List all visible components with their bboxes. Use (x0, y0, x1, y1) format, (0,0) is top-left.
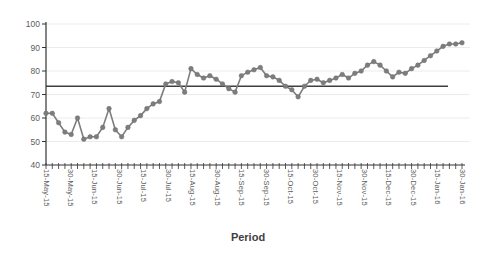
data-point-marker (441, 44, 446, 49)
data-point-marker (220, 82, 225, 87)
data-point-marker (258, 65, 263, 70)
data-point-marker (88, 135, 93, 140)
y-axis-label: 90 (14, 43, 40, 53)
y-axis-label: 100 (14, 19, 40, 29)
data-point-marker (195, 72, 200, 77)
data-point-marker (233, 90, 238, 95)
x-axis-label: 15-Jan-16 (431, 169, 444, 229)
x-axis-label: 15-Sep-15 (235, 169, 248, 229)
data-point-marker (308, 78, 313, 83)
x-axis-label: 30-Aug-15 (211, 169, 224, 229)
data-point-marker (371, 59, 376, 64)
data-point-marker (378, 63, 383, 68)
data-point-marker (182, 90, 187, 95)
data-point-marker (163, 82, 168, 87)
x-axis-label: 30-Jan-16 (456, 169, 469, 229)
data-point-marker (145, 106, 150, 111)
data-point-marker (315, 77, 320, 82)
data-point-marker (56, 120, 61, 125)
x-axis-title: Period (46, 231, 450, 243)
data-point-marker (359, 69, 364, 74)
data-point-marker (447, 42, 452, 47)
data-point-marker (428, 53, 433, 58)
x-axis-label: 30-Sep-15 (260, 169, 273, 229)
data-point-marker (100, 125, 105, 130)
run-chart: 100908070605040 15-May-1530-May-1515-Jun… (0, 0, 482, 258)
data-point-marker (296, 95, 301, 100)
data-point-marker (239, 73, 244, 78)
data-point-marker (245, 70, 250, 75)
data-point-marker (201, 76, 206, 81)
x-axis-label: 30-Dec-15 (407, 169, 420, 229)
x-axis-label: 15-May-15 (40, 169, 53, 229)
x-axis-label: 30-May-15 (64, 169, 77, 229)
data-point-marker (226, 86, 231, 91)
data-point-marker (271, 75, 276, 80)
data-point-marker (50, 111, 55, 116)
data-point-marker (334, 76, 339, 81)
data-point-marker (138, 113, 143, 118)
y-axis-label: 50 (14, 137, 40, 147)
y-axis-label: 80 (14, 66, 40, 76)
x-axis-label: 15-Jun-15 (88, 169, 101, 229)
data-point-marker (189, 66, 194, 71)
data-point-marker (63, 130, 68, 135)
x-axis-label: 30-Jul-15 (162, 169, 175, 229)
data-point-marker (157, 99, 162, 104)
x-axis-label: 15-Dec-15 (382, 169, 395, 229)
data-point-marker (409, 66, 414, 71)
data-point-marker (82, 137, 87, 142)
data-point-marker (397, 70, 402, 75)
data-line (46, 43, 462, 139)
data-point-marker (340, 72, 345, 77)
data-point-marker (107, 106, 112, 111)
data-point-marker (283, 84, 288, 89)
data-point-marker (44, 111, 49, 116)
data-point-marker (403, 71, 408, 76)
data-point-marker (353, 71, 358, 76)
data-point-marker (252, 68, 257, 73)
data-point-marker (119, 135, 124, 140)
data-point-marker (321, 80, 326, 85)
y-axis-label: 60 (14, 113, 40, 123)
data-point-marker (132, 118, 137, 123)
data-point-marker (365, 63, 370, 68)
data-point-marker (290, 88, 295, 93)
data-point-marker (390, 75, 395, 80)
data-point-marker (170, 79, 175, 84)
x-axis-label: 15-Nov-15 (333, 169, 346, 229)
data-point-marker (69, 132, 74, 137)
data-point-marker (214, 77, 219, 82)
x-axis-label: 15-Oct-15 (284, 169, 297, 229)
data-point-marker (126, 125, 131, 130)
data-point-marker (416, 63, 421, 68)
x-axis-label: 30-Nov-15 (358, 169, 371, 229)
data-point-marker (422, 58, 427, 63)
data-point-marker (176, 80, 181, 85)
data-point-marker (151, 102, 156, 107)
data-point-marker (302, 84, 307, 89)
data-point-marker (346, 76, 351, 81)
data-point-marker (434, 49, 439, 54)
y-axis-label: 40 (14, 160, 40, 170)
data-point-marker (453, 42, 458, 47)
data-point-marker (264, 73, 269, 78)
y-axis-label: 70 (14, 90, 40, 100)
data-point-marker (75, 116, 80, 121)
data-point-marker (208, 73, 213, 78)
x-axis-label: 30-Jun-15 (113, 169, 126, 229)
x-axis-label: 30-Oct-15 (309, 169, 322, 229)
data-point-marker (277, 78, 282, 83)
data-point-marker (384, 69, 389, 74)
data-point-marker (113, 127, 118, 132)
x-axis-label: 15-Jul-15 (137, 169, 150, 229)
data-point-marker (94, 135, 99, 140)
x-axis-label: 15-Aug-15 (186, 169, 199, 229)
data-point-marker (460, 41, 465, 46)
data-point-marker (327, 78, 332, 83)
